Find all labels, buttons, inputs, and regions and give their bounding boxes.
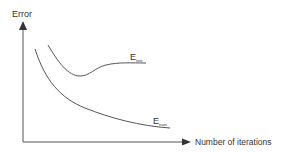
x-axis-label: Number of iterations [195,137,272,147]
x-axis-arrow-icon [182,139,191,146]
series-e-train-label: Etrain [153,116,167,127]
series-e-train-line [35,49,170,128]
series-e-test-label: Etest [130,52,143,63]
y-axis-label: Error [12,9,32,19]
y-axis-arrow-icon [19,21,27,30]
chart: Error Number of iterations Etest Etrain [0,0,299,152]
